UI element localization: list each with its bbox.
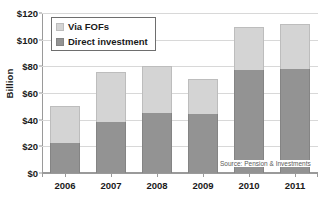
- y-tick-label: $100: [17, 34, 38, 45]
- x-tick-label-2011: 2011: [285, 180, 306, 191]
- bar-segment-via-fofs-2006[interactable]: [50, 106, 80, 143]
- bar-group-2009[interactable]: [188, 13, 218, 173]
- bar-segment-via-fofs-2009[interactable]: [188, 79, 218, 114]
- x-tick-label-2009: 2009: [192, 180, 213, 191]
- y-tick-label: $0: [27, 168, 38, 179]
- x-tick-cell-2009: 2009: [188, 174, 218, 200]
- legend-item-direct[interactable]: Direct investment: [56, 36, 148, 47]
- x-tick-label-2006: 2006: [54, 180, 75, 191]
- x-tick-mark: [295, 174, 296, 177]
- bar-segment-direct-investment-2010[interactable]: [234, 70, 264, 173]
- y-tick-label: $80: [22, 61, 38, 72]
- legend-swatch-direct-icon: [56, 38, 64, 46]
- bar-segment-direct-investment-2009[interactable]: [188, 114, 218, 173]
- legend-swatch-fof-icon: [56, 23, 64, 31]
- x-tick-container: 200620072008200920102011: [42, 174, 318, 200]
- x-tick-mark: [65, 174, 66, 177]
- x-tick-label-2010: 2010: [238, 180, 259, 191]
- legend-label-fof: Via FOFs: [68, 21, 109, 32]
- legend-item-fof[interactable]: Via FOFs: [56, 21, 148, 32]
- y-axis-title: Billion: [4, 54, 15, 114]
- bar-segment-via-fofs-2007[interactable]: [96, 72, 126, 123]
- x-edge-tick-left: [42, 174, 43, 177]
- x-tick-cell-2011: 2011: [280, 174, 310, 200]
- x-axis: 200620072008200920102011: [42, 174, 318, 200]
- y-tick-label: $40: [22, 114, 38, 125]
- source-annotation: Source: Pension & Investments: [219, 160, 312, 167]
- x-tick-cell-2010: 2010: [234, 174, 264, 200]
- x-tick-mark: [249, 174, 250, 177]
- x-tick-mark: [111, 174, 112, 177]
- x-tick-cell-2006: 2006: [50, 174, 80, 200]
- x-tick-mark: [157, 174, 158, 177]
- bar-segment-direct-investment-2007[interactable]: [96, 122, 126, 173]
- x-tick-cell-2008: 2008: [142, 174, 172, 200]
- x-tick-cell-2007: 2007: [96, 174, 126, 200]
- y-tick-label: $120: [17, 8, 38, 19]
- y-tick-label: $60: [22, 88, 38, 99]
- chart-legend: Via FOFsDirect investment: [51, 17, 156, 51]
- bar-group-2010[interactable]: [234, 13, 264, 173]
- x-edge-tick-right: [317, 174, 318, 177]
- bar-segment-direct-investment-2006[interactable]: [50, 143, 80, 173]
- bar-segment-via-fofs-2010[interactable]: [234, 27, 264, 70]
- bar-segment-via-fofs-2011[interactable]: [280, 24, 310, 69]
- legend-label-direct: Direct investment: [68, 36, 148, 47]
- y-tick-label: $20: [22, 141, 38, 152]
- bar-group-2011[interactable]: [280, 13, 310, 173]
- bar-segment-via-fofs-2008[interactable]: [142, 66, 172, 113]
- x-tick-label-2007: 2007: [100, 180, 121, 191]
- x-tick-label-2008: 2008: [146, 180, 167, 191]
- x-tick-mark: [203, 174, 204, 177]
- bar-segment-direct-investment-2011[interactable]: [280, 69, 310, 173]
- stacked-bar-chart: Billion $0$20$40$60$80$100$120 200620072…: [0, 0, 325, 204]
- bar-segment-direct-investment-2008[interactable]: [142, 113, 172, 173]
